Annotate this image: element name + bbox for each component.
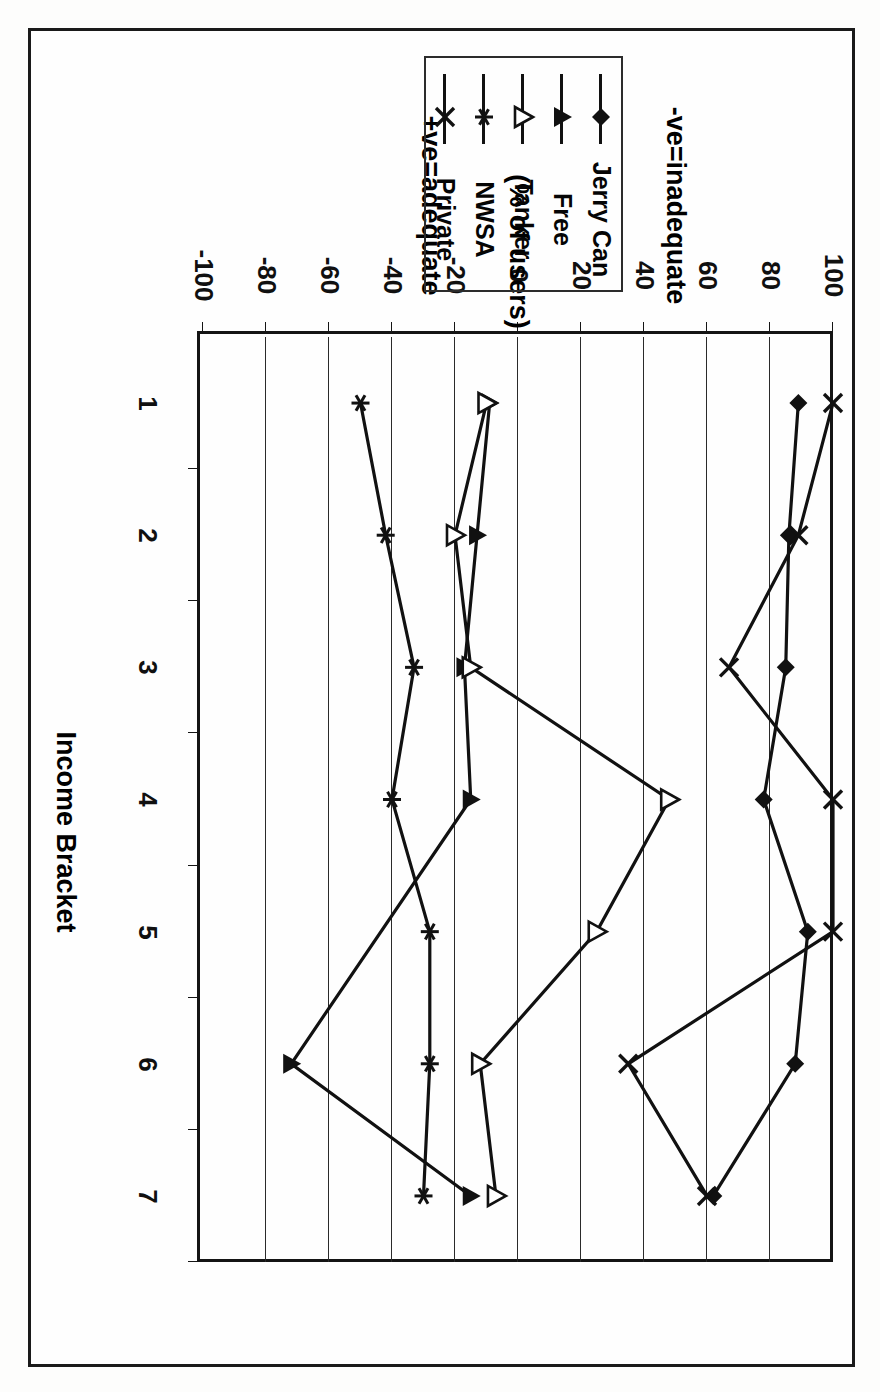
data-point-open-triangle bbox=[589, 922, 607, 942]
value-tick bbox=[202, 322, 203, 334]
legend-item-nwsa[interactable]: NWSA bbox=[465, 58, 504, 290]
data-point-filled-triangle bbox=[555, 107, 573, 127]
value-axis-tick-label: 60 bbox=[692, 238, 723, 314]
category-axis-tick-label: 4 bbox=[132, 778, 163, 822]
value-axis-tick-label: -40 bbox=[377, 238, 408, 314]
value-tick bbox=[706, 322, 707, 334]
data-point-filled-diamond bbox=[777, 658, 795, 676]
category-tick bbox=[188, 997, 200, 998]
value-tick bbox=[265, 322, 266, 334]
value-axis-tick-label: 80 bbox=[755, 238, 786, 314]
value-axis-tick-label: -100 bbox=[188, 238, 219, 314]
category-axis-tick-label: 2 bbox=[132, 514, 163, 558]
data-point-open-triangle bbox=[516, 107, 534, 127]
x-axis-title: Income Bracket bbox=[50, 732, 81, 932]
category-axis-tick-label: 6 bbox=[132, 1042, 163, 1086]
category-tick bbox=[188, 865, 200, 866]
legend-item-tanker[interactable]: Tanker bbox=[504, 58, 543, 290]
data-point-filled-diamond bbox=[755, 791, 773, 809]
legend-marker-cross-x bbox=[433, 104, 459, 130]
legend-item-private[interactable]: Private bbox=[426, 58, 465, 290]
legend-marker-filled-diamond bbox=[589, 104, 615, 130]
legend-label: Free bbox=[548, 150, 577, 290]
value-axis-tick-label: 40 bbox=[629, 238, 660, 314]
legend-item-jerry-can[interactable]: Jerry Can bbox=[582, 58, 621, 290]
rotated-figure-container: 100806040200-20-40-60-80-100 1234567 Inc… bbox=[28, 28, 855, 1367]
category-axis-tick-label: 1 bbox=[132, 382, 163, 426]
data-point-filled-diamond bbox=[799, 923, 817, 941]
legend-label: Tanker bbox=[509, 150, 538, 290]
legend-marker-filled-triangle bbox=[550, 104, 576, 130]
value-tick bbox=[643, 322, 644, 334]
data-point-filled-diamond bbox=[786, 1055, 804, 1073]
category-tick bbox=[188, 732, 200, 733]
value-tick bbox=[328, 322, 329, 334]
value-axis-tick-label: -60 bbox=[314, 238, 345, 314]
legend-label: Jerry Can bbox=[587, 150, 616, 290]
data-point-filled-diamond bbox=[593, 108, 611, 126]
value-tick bbox=[580, 322, 581, 334]
legend-label: Private bbox=[431, 150, 460, 290]
data-point-filled-triangle bbox=[463, 1186, 481, 1206]
category-axis-tick-label: 7 bbox=[132, 1174, 163, 1218]
data-point-cross-x bbox=[720, 658, 738, 676]
y-axis-title-negative: -ve=inadequate bbox=[660, 46, 691, 366]
legend: Jerry CanFreeTankerNWSAPrivate bbox=[424, 56, 623, 292]
data-point-filled-diamond bbox=[789, 394, 807, 412]
value-axis-tick-label: -80 bbox=[251, 238, 282, 314]
category-axis-tick-label: 5 bbox=[132, 910, 163, 954]
data-point-open-triangle bbox=[463, 657, 481, 677]
legend-item-free[interactable]: Free bbox=[543, 58, 582, 290]
value-tick bbox=[391, 322, 392, 334]
legend-marker-open-triangle bbox=[511, 104, 537, 130]
legend-label: NWSA bbox=[470, 150, 499, 290]
value-tick bbox=[454, 322, 455, 334]
series-line-private bbox=[628, 403, 833, 1196]
value-axis-tick-label: 100 bbox=[818, 238, 849, 314]
value-tick bbox=[769, 322, 770, 334]
page-canvas: 100806040200-20-40-60-80-100 1234567 Inc… bbox=[0, 0, 880, 1392]
data-point-asterisk bbox=[476, 109, 494, 125]
category-tick bbox=[188, 1261, 200, 1262]
value-tick bbox=[832, 322, 833, 334]
category-tick bbox=[188, 600, 200, 601]
category-tick bbox=[188, 468, 200, 469]
chart-area: 100806040200-20-40-60-80-100 1234567 Inc… bbox=[28, 28, 855, 1367]
data-point-open-triangle bbox=[488, 1186, 506, 1206]
series-plot bbox=[203, 337, 833, 1262]
data-point-open-triangle bbox=[661, 790, 679, 810]
data-point-cross-x bbox=[437, 108, 455, 126]
data-point-cross-x bbox=[619, 1055, 637, 1073]
category-tick bbox=[188, 1129, 200, 1130]
category-axis-tick-label: 3 bbox=[132, 646, 163, 690]
legend-marker-asterisk bbox=[472, 104, 498, 130]
